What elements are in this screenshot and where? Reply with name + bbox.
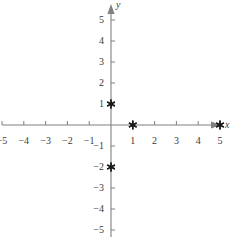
y-tick-label: −3 <box>93 183 104 193</box>
y-axis-label: y <box>116 0 120 10</box>
axes-and-markers <box>0 0 232 240</box>
marker-center <box>131 124 134 127</box>
y-axis-arrowhead <box>107 4 114 14</box>
y-tick-label: 4 <box>99 36 104 46</box>
y-tick-label: −2 <box>93 162 104 172</box>
marker-center <box>110 103 113 106</box>
x-tick-label: 5 <box>218 136 223 146</box>
x-tick-label: 3 <box>174 136 179 146</box>
marker-center <box>219 124 222 127</box>
coordinate-plane-figure: −5−4−3−2−11234554321−1−2−3−4−5 x y <box>0 0 232 240</box>
x-tick-label: −5 <box>0 136 7 146</box>
x-tick-label: 4 <box>196 136 201 146</box>
data-point-markers <box>107 100 224 172</box>
x-tick-label: 1 <box>130 136 135 146</box>
x-tick-label: −2 <box>62 136 73 146</box>
y-tick-label: −1 <box>93 141 104 151</box>
y-tick-label: −5 <box>93 225 104 235</box>
x-tick-label: 2 <box>152 136 157 146</box>
y-tick-label: 1 <box>99 99 104 109</box>
x-tick-label: −3 <box>40 136 51 146</box>
y-tick-label: 5 <box>99 15 104 25</box>
axis-lines <box>2 4 221 237</box>
x-tick-label: −4 <box>18 136 29 146</box>
x-axis-label: x <box>225 120 229 130</box>
marker-center <box>110 166 113 169</box>
y-tick-label: −4 <box>93 204 104 214</box>
y-tick-label: 3 <box>99 57 104 67</box>
y-tick-label: 2 <box>99 78 104 88</box>
